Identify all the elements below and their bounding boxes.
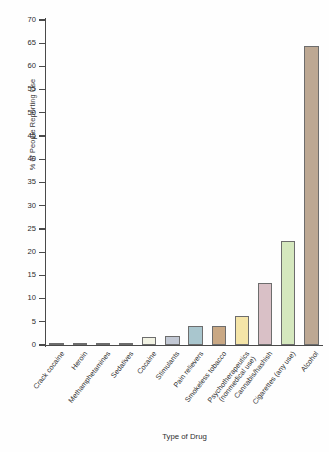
x-axis-tick-label: Alcohol	[300, 350, 321, 374]
bar	[235, 316, 249, 345]
y-axis-tick-label: 30	[14, 202, 36, 210]
y-axis-tick-label: 70	[14, 16, 36, 24]
y-axis-tick-label: 35	[14, 178, 36, 186]
y-axis-tick-label: 0	[14, 341, 36, 349]
bar	[73, 343, 87, 345]
y-axis-tick-label: 25	[14, 225, 36, 233]
x-axis-line	[45, 345, 323, 346]
y-axis-tick-label: 55	[14, 85, 36, 93]
x-axis-label-text: Type of Drug	[162, 432, 207, 441]
bar	[165, 336, 179, 345]
bar-chart: % of People Reporting Use 05101520253035…	[0, 0, 329, 452]
bar	[49, 343, 63, 345]
x-axis-tick-label: Heroin	[70, 350, 89, 372]
y-axis-tick-label: 45	[14, 132, 36, 140]
bar	[188, 326, 202, 346]
y-axis-tick-label: 40	[14, 155, 36, 163]
x-axis-tick-label: Sedatives	[110, 350, 136, 380]
y-axis-tick-label: 50	[14, 109, 36, 117]
y-axis-tick-label: 60	[14, 62, 36, 70]
bar	[142, 337, 156, 345]
y-axis-tick-label: 15	[14, 271, 36, 279]
x-axis-tick-label: Crack cocaine	[32, 350, 66, 391]
bar	[304, 46, 318, 345]
y-axis-tick-label: 5	[14, 318, 36, 326]
x-axis-tick-label: Cigarettes (any use)	[251, 350, 297, 406]
y-axis-tick-label: 10	[14, 294, 36, 302]
y-axis-tick-label: 65	[14, 39, 36, 47]
bar	[212, 326, 226, 346]
y-axis-tick-label: 20	[14, 248, 36, 256]
bar	[281, 241, 295, 345]
bar	[119, 343, 133, 345]
x-axis-label: Type of Drug	[0, 432, 329, 441]
bar	[96, 343, 110, 345]
bar	[258, 283, 272, 345]
bars-group	[45, 20, 323, 345]
